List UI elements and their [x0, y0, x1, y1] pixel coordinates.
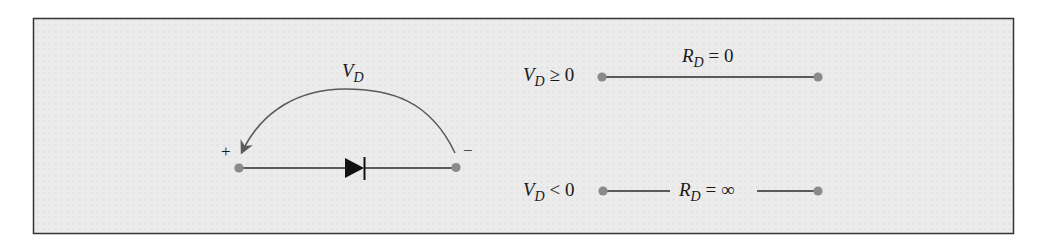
terminal-right — [813, 186, 822, 195]
terminal-left — [597, 72, 606, 81]
minus-sign: − — [463, 141, 473, 160]
cathode-terminal — [451, 163, 460, 172]
figure-panel — [34, 19, 1014, 234]
terminal-right — [813, 72, 822, 81]
anode-terminal — [234, 163, 243, 172]
terminal-left — [598, 186, 607, 195]
ideal-diode-model-figure: VD + − VD ≥ 0 RD = 0 VD < 0 — [0, 0, 1049, 245]
plus-sign: + — [221, 142, 231, 161]
